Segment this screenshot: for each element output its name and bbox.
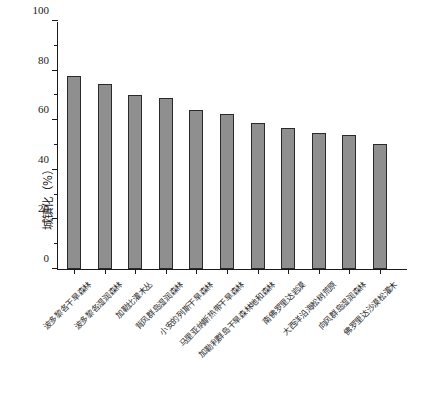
y-tick [52, 268, 58, 269]
y-tick-minor [54, 194, 58, 195]
y-tick-minor [54, 243, 58, 244]
y-tick-minor [54, 144, 58, 145]
x-tick-label: 小安的列斯干旱森林 [158, 280, 215, 337]
bar [373, 144, 387, 269]
y-tick-label: 80 [38, 54, 49, 65]
x-axis-labels: 波多黎各干旱森林波多黎各湿润森林加勒比灌木丛背风群岛湿润森林小安的列斯干旱森林马… [57, 270, 417, 390]
bar [159, 98, 173, 269]
y-tick-label: 20 [38, 203, 49, 214]
y-tick-label: 100 [33, 5, 50, 16]
bar-series [58, 22, 407, 269]
bar [189, 110, 203, 269]
y-tick-minor [54, 45, 58, 46]
bar [67, 76, 81, 269]
bar [98, 84, 112, 269]
y-tick [52, 169, 58, 170]
y-tick-label: 0 [44, 253, 50, 264]
y-tick-label: 40 [38, 153, 49, 164]
bar [342, 135, 356, 269]
bar-chart-figure: 城镇化（%） 020406080100 波多黎各干旱森林波多黎各湿润森林加勒比灌… [0, 0, 428, 393]
bar [312, 133, 326, 269]
bar [281, 128, 295, 269]
bar [251, 123, 265, 269]
bar [128, 95, 142, 269]
y-tick [52, 70, 58, 71]
cropped-caption-strip [0, 383, 428, 393]
y-tick-minor [54, 94, 58, 95]
y-tick-label: 60 [38, 104, 49, 115]
plot-area: 020406080100 [57, 22, 407, 270]
y-tick [52, 20, 58, 21]
y-tick [52, 119, 58, 120]
bar [220, 114, 234, 269]
y-axis-title: 城镇化（%） [39, 164, 55, 230]
y-tick [52, 218, 58, 219]
